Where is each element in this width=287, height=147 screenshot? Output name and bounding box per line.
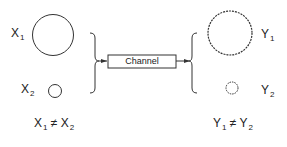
label-x1-symbol: X	[11, 26, 19, 40]
relation-left-symbol: Y	[213, 116, 221, 130]
relation-right-symbol: X	[61, 116, 69, 130]
relation-right-subscript: 2	[249, 123, 253, 132]
channel-label: Channel	[108, 55, 176, 68]
right-brace	[189, 33, 197, 93]
label-y2: Y2	[261, 84, 274, 98]
output-y1-circle	[208, 11, 252, 55]
relation-left-subscript: 1	[43, 123, 47, 132]
not-equal-sign: ≠	[51, 116, 58, 130]
label-y1-symbol: Y	[261, 27, 269, 41]
label-y1-subscript: 1	[270, 34, 274, 43]
label-x2-subscript: 2	[30, 89, 34, 98]
label-y2-subscript: 2	[270, 90, 274, 99]
label-x2: X2	[21, 83, 34, 97]
output-relation: Y1 ≠ Y2	[213, 116, 253, 130]
label-y1: Y1	[261, 28, 274, 42]
relation-left-symbol: X	[34, 116, 42, 130]
label-x1: X1	[11, 27, 24, 41]
relation-right-subscript: 2	[70, 123, 74, 132]
arrowhead-icon	[101, 59, 107, 63]
label-x2-symbol: X	[21, 82, 29, 96]
input-relation: X1 ≠ X2	[34, 116, 74, 130]
relation-right-symbol: Y	[240, 116, 248, 130]
not-equal-sign: ≠	[230, 116, 237, 130]
relation-left-subscript: 1	[222, 123, 226, 132]
left-brace	[90, 33, 99, 93]
input-x1-circle	[33, 15, 74, 56]
label-y2-symbol: Y	[261, 83, 269, 97]
input-x2-circle	[49, 85, 62, 98]
label-x1-subscript: 1	[20, 33, 24, 42]
output-y2-circle	[226, 82, 238, 94]
